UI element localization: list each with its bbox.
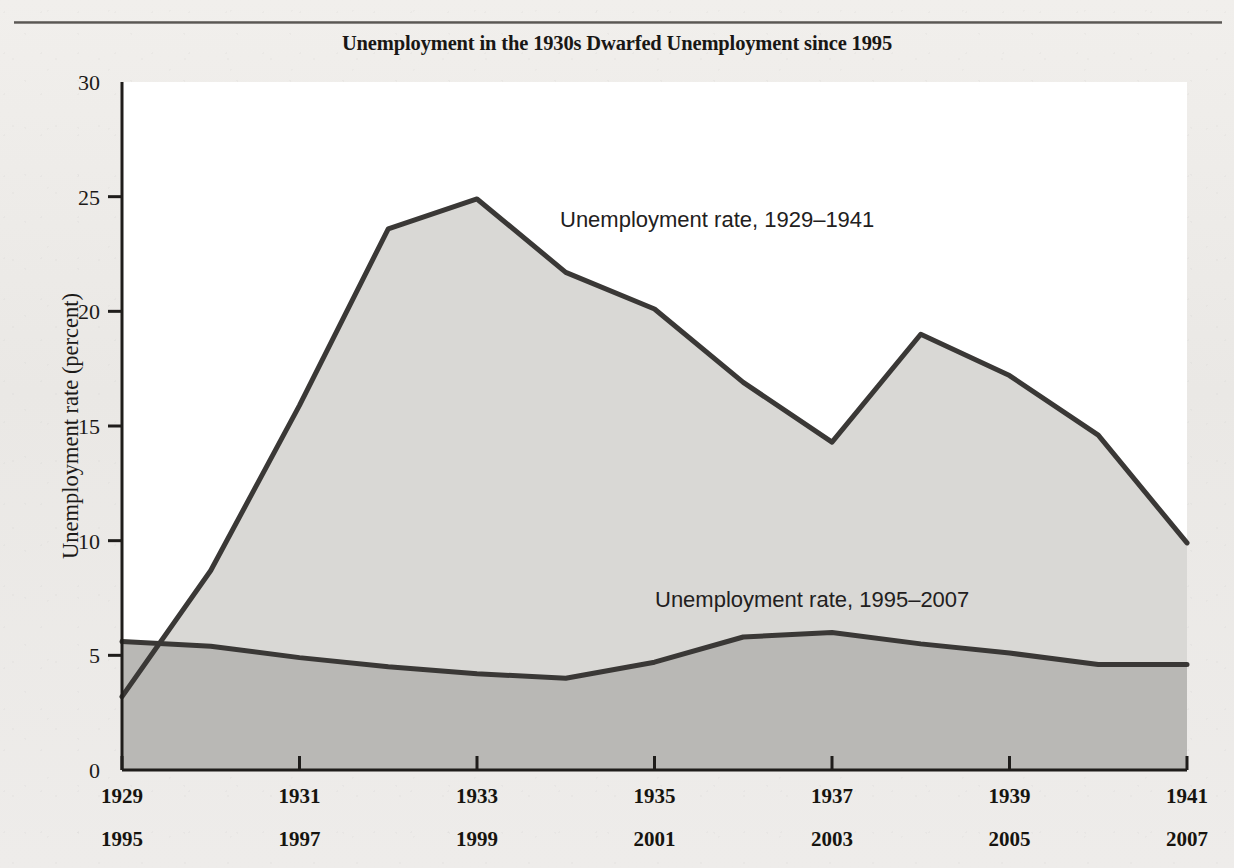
x-tick-label-depression: 1931 (279, 784, 321, 808)
figure-container: Unemployment in the 1930s Dwarfed Unempl… (0, 0, 1234, 868)
y-axis-title: Unemployment rate (percent) (58, 293, 83, 559)
x-tick-label-row-modern: 1995199719992001200320052007 (101, 827, 1208, 851)
x-tick-label-modern: 1995 (101, 827, 143, 851)
x-tick-label-depression: 1937 (811, 784, 853, 808)
x-tick-label-modern: 1997 (279, 827, 321, 851)
x-tick-label-depression: 1939 (989, 784, 1031, 808)
y-tick-label: 25 (78, 185, 100, 210)
x-tick-label-depression: 1929 (101, 784, 143, 808)
x-tick-label-depression: 1941 (1166, 784, 1208, 808)
x-tick-label-modern: 1999 (456, 827, 498, 851)
x-tick-label-modern: 2007 (1166, 827, 1208, 851)
x-tick-label-row-depression: 1929193119331935193719391941 (101, 784, 1208, 808)
y-tick-group (108, 197, 122, 656)
chart-plot-area: 051015202530 192919311933193519371939194… (0, 0, 1234, 868)
x-tick-label-modern: 2003 (811, 827, 853, 851)
annotation-modern-label: Unemployment rate, 1995–2007 (655, 587, 969, 612)
y-tick-label: 0 (89, 758, 100, 783)
annotation-depression-label: Unemployment rate, 1929–1941 (560, 207, 874, 232)
y-tick-label: 30 (78, 70, 100, 95)
y-tick-label: 5 (89, 643, 100, 668)
x-tick-label-modern: 2005 (989, 827, 1031, 851)
x-tick-label-depression: 1935 (634, 784, 676, 808)
x-tick-label-depression: 1933 (456, 784, 498, 808)
x-tick-label-modern: 2001 (634, 827, 676, 851)
